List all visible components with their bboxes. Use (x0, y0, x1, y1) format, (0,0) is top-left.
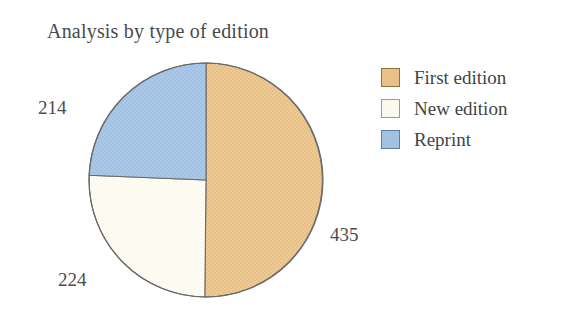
chart-legend: First edition New edition Reprint (381, 62, 561, 155)
pie-chart-figure: Analysis by type of edition (0, 0, 567, 319)
legend-item-new-edition: New edition (381, 93, 561, 124)
pie-value-label-reprint: 214 (38, 97, 67, 119)
pie-value-label-new-edition: 224 (58, 269, 87, 291)
legend-label-new-edition: New edition (414, 98, 507, 120)
pie-slice-new-edition (89, 175, 206, 297)
pie-slice-first-edition (205, 63, 323, 297)
legend-swatch-icon-first-edition (381, 68, 400, 87)
pie-value-label-first-edition: 435 (330, 224, 359, 246)
legend-item-reprint: Reprint (381, 124, 561, 155)
legend-label-reprint: Reprint (414, 129, 471, 151)
legend-swatch-icon-new-edition (381, 99, 400, 118)
legend-item-first-edition: First edition (381, 62, 561, 93)
legend-swatch-icon-reprint (381, 130, 400, 149)
pie-slice-reprint (89, 63, 206, 180)
legend-label-first-edition: First edition (414, 67, 506, 89)
